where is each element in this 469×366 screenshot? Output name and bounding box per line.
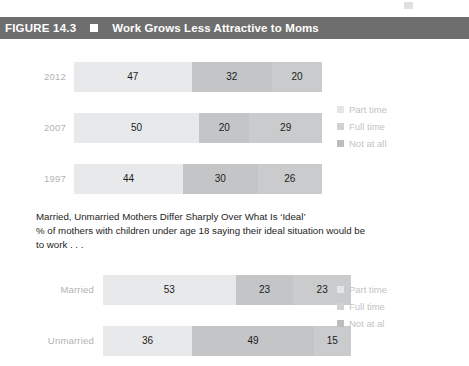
- chart-row: Unmarried364915: [36, 315, 351, 366]
- caption-block: Married, Unmarried Mothers Differ Sharpl…: [36, 210, 366, 252]
- figure-title-bar: FIGURE 14.3 Work Grows Less Attractive t…: [0, 17, 469, 39]
- bar-segment-value: 50: [74, 113, 199, 143]
- chart-married-unmarried: Married532323Unmarried364915: [36, 264, 351, 366]
- category-label: 2007: [36, 122, 66, 133]
- bar-segment-value: 53: [103, 275, 236, 305]
- stacked-bar: 473220: [74, 62, 322, 92]
- square-bullet-icon: [90, 24, 98, 32]
- legend-swatch-icon: [337, 123, 344, 130]
- legend-label: Part time: [349, 284, 387, 295]
- chart-work-attractiveness: 201247322020075020291997443026: [36, 51, 322, 204]
- legend-item[interactable]: Not at all: [337, 135, 387, 152]
- legend-label: Full time: [349, 121, 385, 132]
- legend-item[interactable]: Part time: [337, 101, 387, 118]
- legend-swatch-icon: [337, 286, 344, 293]
- chart-row: Married532323: [36, 264, 351, 315]
- chart-row: 2007502029: [36, 102, 322, 153]
- bar-segment-value: 23: [236, 275, 294, 305]
- legend-item[interactable]: Full time: [337, 298, 387, 315]
- legend-swatch-icon: [337, 320, 344, 327]
- legend-bottom: Part timeFull timeNot at al: [337, 281, 387, 332]
- legend-swatch-icon: [337, 140, 344, 147]
- legend-item[interactable]: Full time: [337, 118, 387, 135]
- legend-swatch-icon: [337, 303, 344, 310]
- category-label: Married: [36, 284, 94, 295]
- legend-item[interactable]: Not at al: [337, 315, 387, 332]
- chart-row: 2012473220: [36, 51, 322, 102]
- caption-subline: % of mothers with children under age 18 …: [36, 224, 366, 252]
- bar-segment-value: 20: [199, 113, 249, 143]
- chart-row: 1997443026: [36, 153, 322, 204]
- bar-segment-value: 30: [183, 164, 257, 194]
- bar-segment-value: 29: [249, 113, 322, 143]
- legend-item[interactable]: Part time: [337, 281, 387, 298]
- legend-top: Part timeFull timeNot at all: [337, 101, 387, 152]
- caption-headline: Married, Unmarried Mothers Differ Sharpl…: [36, 210, 366, 224]
- stacked-bar: 443026: [74, 164, 322, 194]
- bar-segment-value: 47: [74, 62, 192, 92]
- figure-number: FIGURE 14.3: [5, 22, 76, 34]
- bar-segment-value: 36: [103, 326, 192, 356]
- legend-label: Not at al: [349, 318, 384, 329]
- category-label: 2012: [36, 71, 66, 82]
- category-label: Unmarried: [36, 335, 94, 346]
- legend-label: Part time: [349, 104, 387, 115]
- legend-swatch-icon: [337, 106, 344, 113]
- bar-segment-value: 44: [74, 164, 183, 194]
- category-label: 1997: [36, 173, 66, 184]
- bar-segment-value: 20: [272, 62, 322, 92]
- scan-artifact: [404, 2, 413, 9]
- bar-segment-value: 32: [192, 62, 272, 92]
- figure-title: Work Grows Less Attractive to Moms: [112, 22, 319, 34]
- legend-label: Not at all: [349, 138, 387, 149]
- bar-segment-value: 49: [192, 326, 314, 356]
- stacked-bar: 502029: [74, 113, 322, 143]
- stacked-bar: 364915: [103, 326, 351, 356]
- bar-segment-value: 26: [258, 164, 322, 194]
- stacked-bar: 532323: [103, 275, 351, 305]
- legend-label: Full time: [349, 301, 385, 312]
